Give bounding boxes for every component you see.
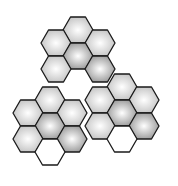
hexagon-layer	[13, 17, 159, 165]
hexagon-empty	[107, 126, 137, 152]
hexagon-cluster-figure	[0, 0, 178, 186]
right-cluster	[85, 74, 159, 152]
hexagon-empty	[35, 139, 65, 165]
hexagon-dark	[85, 56, 115, 82]
hexagon-light	[41, 56, 71, 82]
top-cluster	[41, 17, 115, 82]
left-cluster	[13, 87, 87, 165]
